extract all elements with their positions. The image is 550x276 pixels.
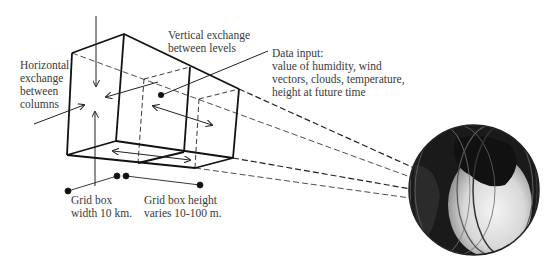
earth-globe-icon xyxy=(409,124,539,257)
label-vertical-exchange: Vertical exchange between levels xyxy=(168,29,250,55)
label-horizontal-exchange: Horizontal exchange between columns xyxy=(20,59,69,111)
diagram-canvas xyxy=(0,0,550,276)
data-point-dot xyxy=(158,92,164,98)
label-data-input: Data input: value of humidity, wind vect… xyxy=(272,47,405,99)
grid-size-pointers xyxy=(65,173,203,194)
label-grid-height: Grid box height varies 10-100 m. xyxy=(144,194,222,220)
label-grid-width: Grid box width 10 km. xyxy=(71,194,132,220)
